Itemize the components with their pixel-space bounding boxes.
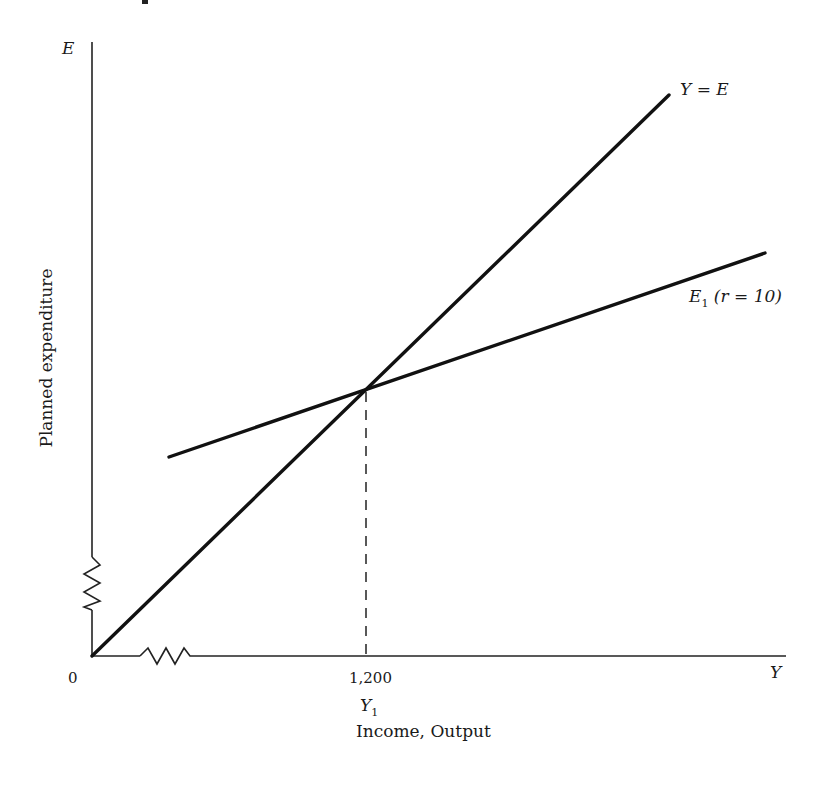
line-e1-label: E1 (r = 10) — [688, 286, 782, 310]
line-y-equals-e — [92, 95, 669, 656]
y1-label: Y1 — [360, 695, 378, 719]
line-e1 — [169, 253, 765, 457]
y-axis — [84, 42, 100, 656]
y-axis-title: Planned expenditure — [36, 268, 56, 447]
x-axis-break-icon — [140, 648, 193, 664]
heading-fragment — [142, 0, 148, 4]
line-y-equals-e-label: Y = E — [680, 79, 729, 99]
x-axis-title: Income, Output — [356, 721, 491, 741]
expenditure-chart: E Y 0 Planned expenditure Income, Output… — [0, 0, 830, 790]
tick-label-1200: 1,200 — [349, 669, 392, 687]
x-axis-symbol: Y — [770, 662, 783, 682]
origin-label: 0 — [68, 669, 78, 687]
y-axis-break-icon — [84, 557, 100, 610]
y-axis-symbol: E — [61, 38, 75, 58]
x-axis — [92, 648, 786, 664]
